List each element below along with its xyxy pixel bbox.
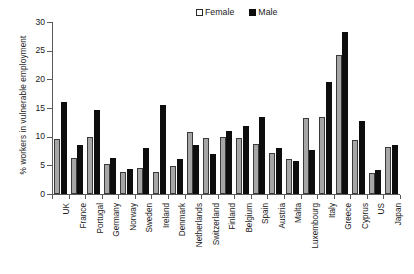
bar-male [127,169,133,194]
bar-female [352,140,358,194]
y-tick-label: 10 [26,132,45,141]
bar-female [54,139,60,194]
bar-male [210,154,216,194]
x-tick-mark [102,195,103,199]
bar-female [236,138,242,194]
x-category-label: Switzerland [213,203,221,263]
x-tick-mark [301,195,302,199]
bar-male [276,148,282,194]
chart-legend: Female Male [196,8,277,17]
bar-female [286,159,292,194]
x-category-label: Japan [395,203,403,263]
x-category-label: Cyprus [362,203,370,263]
bar-male [193,145,199,194]
bar-female [253,144,259,194]
bar-female [71,158,77,194]
bar-male [309,150,315,194]
x-tick-mark [218,195,219,199]
bar-female [319,117,325,194]
x-tick-mark [251,195,252,199]
y-tick-label: 20 [26,75,45,84]
bar-female [137,168,143,194]
x-category-label: Malta [295,203,303,263]
y-tick-label: 0 [26,190,45,199]
x-category-label: Luxembourg [312,203,320,263]
legend-label-male: Male [258,8,277,17]
x-category-label: Austria [279,203,287,263]
y-tick-label: 5 [26,161,45,170]
bar-male [177,159,183,194]
bar-male [143,148,149,194]
x-tick-mark [118,195,119,199]
legend-item-female: Female [196,8,234,17]
bar-female [120,172,126,194]
bar-male [94,110,100,194]
bar-male [326,82,332,194]
female-swatch-icon [196,9,203,16]
bar-male [259,117,265,194]
bar-female [153,172,159,194]
bar-female [220,137,226,194]
x-category-label: UK [63,203,71,263]
x-category-label: Spain [262,203,270,263]
bar-female [104,164,110,194]
x-tick-mark [135,195,136,199]
x-category-label: Portugal [97,203,105,263]
bar-female [369,173,375,194]
y-tick-label: 25 [26,46,45,55]
bar-female [170,166,176,194]
x-category-label: Finland [229,203,237,263]
x-tick-mark [168,195,169,199]
bar-female [269,153,275,194]
bar-male [160,105,166,194]
bar-male [342,32,348,194]
y-tick-label: 30 [26,18,45,27]
x-category-label: France [80,203,88,263]
x-tick-mark [201,195,202,199]
x-tick-mark [151,195,152,199]
x-category-label: Greece [345,203,353,263]
x-category-label: Norway [130,203,138,263]
x-axis-line [52,194,400,195]
x-tick-mark [317,195,318,199]
x-tick-mark [267,195,268,199]
x-tick-mark [367,195,368,199]
y-tick-label: 15 [26,104,45,113]
bar-male [375,170,381,194]
legend-item-male: Male [249,8,277,17]
x-tick-mark [85,195,86,199]
x-category-label: Netherlands [196,203,204,263]
x-tick-mark [400,195,401,199]
x-category-label: Belgium [246,203,254,263]
bar-male [293,161,299,194]
bar-male [392,145,398,194]
x-tick-mark [284,195,285,199]
bar-female [336,55,342,194]
x-tick-mark [52,195,53,199]
x-tick-mark [383,195,384,199]
bar-male [61,102,67,194]
x-category-label: Ireland [163,203,171,263]
bar-male [110,158,116,194]
x-tick-mark [350,195,351,199]
bar-male [226,131,232,194]
x-tick-mark [234,195,235,199]
legend-label-female: Female [205,8,234,17]
x-category-label: Italy [329,203,337,263]
bar-female [87,137,93,194]
x-category-label: US [378,203,386,263]
male-swatch-icon [249,9,256,16]
x-category-label: Denmark [179,203,187,263]
bar-female [187,132,193,194]
x-tick-mark [334,195,335,199]
bar-male [77,145,83,194]
x-category-label: Sweden [146,203,154,263]
bar-female [385,147,391,194]
x-tick-mark [185,195,186,199]
x-tick-mark [69,195,70,199]
plot-area [52,22,400,194]
bar-male [243,126,249,194]
vulnerable-employment-bar-chart: % workers in vulnerable employment 05101… [0,0,414,274]
bar-male [359,121,365,194]
x-category-label: Germany [113,203,121,263]
